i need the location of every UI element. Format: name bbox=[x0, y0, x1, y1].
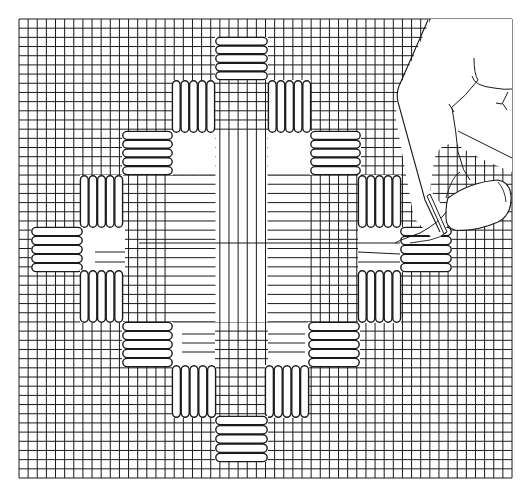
satin-stitch bbox=[311, 167, 360, 175]
satin-stitch bbox=[384, 176, 392, 227]
block-upper-right bbox=[268, 80, 311, 133]
block-left-2-bottom bbox=[122, 322, 173, 367]
satin-stitch bbox=[32, 236, 82, 244]
satin-stitch bbox=[190, 366, 198, 417]
center-left-white-top bbox=[172, 133, 215, 175]
satin-stitch bbox=[294, 81, 302, 132]
satin-stitch bbox=[216, 444, 267, 452]
satin-stitch bbox=[216, 37, 267, 45]
central-column bbox=[216, 133, 268, 322]
satin-stitch bbox=[216, 55, 267, 63]
satin-stitch bbox=[311, 149, 360, 157]
satin-stitch bbox=[311, 131, 360, 139]
satin-stitch bbox=[309, 340, 359, 348]
left-inner-white bbox=[83, 228, 125, 272]
satin-stitch bbox=[80, 176, 88, 227]
satin-stitch bbox=[89, 176, 97, 227]
block-right-2-top bbox=[310, 131, 361, 175]
satin-stitch bbox=[309, 349, 359, 357]
satin-stitch bbox=[89, 271, 97, 322]
thumb bbox=[446, 180, 511, 230]
block-upper-left bbox=[172, 80, 215, 133]
satin-stitch bbox=[286, 81, 294, 132]
right-inner-white bbox=[358, 228, 400, 272]
satin-stitch bbox=[358, 176, 366, 227]
block-lower-right bbox=[265, 365, 309, 418]
satin-stitch bbox=[115, 271, 123, 322]
satin-stitch bbox=[98, 271, 106, 322]
satin-stitch bbox=[123, 322, 172, 330]
satin-stitch bbox=[32, 263, 82, 271]
satin-stitch bbox=[216, 63, 267, 71]
satin-stitch bbox=[190, 81, 198, 132]
satin-stitch bbox=[32, 245, 82, 253]
satin-stitch bbox=[265, 366, 273, 417]
block-right-3-bottom bbox=[358, 270, 401, 323]
satin-stitch bbox=[98, 176, 106, 227]
satin-stitch bbox=[181, 366, 189, 417]
satin-stitch bbox=[172, 81, 180, 132]
satin-stitch bbox=[181, 81, 189, 132]
satin-stitch bbox=[123, 358, 172, 366]
satin-stitch bbox=[303, 81, 311, 132]
block-right-3-top bbox=[358, 175, 401, 228]
satin-stitch bbox=[393, 176, 401, 227]
block-left-end bbox=[31, 227, 83, 272]
satin-stitch bbox=[384, 271, 392, 322]
satin-stitch bbox=[216, 426, 267, 434]
block-left-2-top bbox=[122, 131, 173, 175]
satin-stitch bbox=[311, 140, 360, 148]
satin-stitch bbox=[393, 271, 401, 322]
satin-stitch bbox=[32, 254, 82, 262]
needlepoint-illustration: Needlepoint canvas with diamond stitch p… bbox=[0, 0, 529, 496]
satin-stitch bbox=[376, 176, 384, 227]
block-left-3-bottom bbox=[80, 270, 123, 323]
satin-stitch bbox=[80, 271, 88, 322]
satin-stitch bbox=[216, 46, 267, 54]
satin-stitch bbox=[277, 81, 285, 132]
satin-stitch bbox=[115, 176, 123, 227]
satin-stitch bbox=[301, 366, 309, 417]
satin-stitch bbox=[274, 366, 282, 417]
satin-stitch bbox=[106, 271, 114, 322]
satin-stitch bbox=[216, 435, 267, 443]
satin-stitch bbox=[198, 81, 206, 132]
block-lower-left bbox=[172, 365, 216, 418]
center-right-white-top bbox=[268, 133, 310, 175]
satin-stitch bbox=[208, 366, 216, 417]
satin-stitch bbox=[311, 158, 360, 166]
satin-stitch bbox=[123, 140, 172, 148]
satin-stitch bbox=[216, 72, 267, 80]
satin-stitch bbox=[199, 366, 207, 417]
satin-stitch bbox=[401, 245, 451, 253]
satin-stitch bbox=[309, 322, 359, 330]
satin-stitch bbox=[292, 366, 300, 417]
satin-stitch bbox=[283, 366, 291, 417]
satin-stitch bbox=[309, 331, 359, 339]
satin-stitch bbox=[367, 271, 375, 322]
center-left-white-bottom bbox=[172, 322, 215, 367]
block-bottom bbox=[215, 416, 268, 462]
satin-stitch bbox=[123, 158, 172, 166]
hand-with-needle bbox=[395, 19, 512, 243]
satin-stitch bbox=[309, 358, 359, 366]
center-right-white-bottom bbox=[268, 322, 310, 367]
satin-stitch bbox=[367, 176, 375, 227]
canvas-svg bbox=[0, 0, 529, 496]
block-top bbox=[215, 37, 268, 80]
satin-stitch bbox=[358, 271, 366, 322]
satin-stitch bbox=[268, 81, 276, 132]
satin-stitch bbox=[123, 349, 172, 357]
satin-stitch bbox=[401, 263, 451, 271]
satin-stitch bbox=[123, 131, 172, 139]
satin-stitch bbox=[207, 81, 215, 132]
satin-stitch bbox=[123, 167, 172, 175]
satin-stitch bbox=[123, 331, 172, 339]
satin-stitch bbox=[32, 227, 82, 235]
satin-stitch bbox=[172, 366, 180, 417]
block-right-2-bottom bbox=[308, 322, 360, 367]
satin-stitch bbox=[123, 149, 172, 157]
satin-stitch bbox=[123, 340, 172, 348]
block-left-3-top bbox=[80, 175, 123, 228]
satin-stitch bbox=[216, 416, 267, 424]
